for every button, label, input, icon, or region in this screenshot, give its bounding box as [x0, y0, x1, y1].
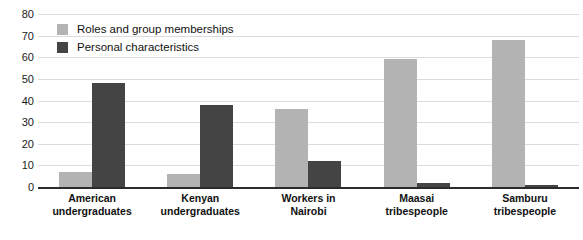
x-axis-label-line: American	[38, 192, 146, 205]
legend-swatch-icon	[57, 42, 68, 53]
x-axis-label: Kenyanundergraduates	[146, 192, 254, 217]
x-axis-label-line: Workers in	[254, 192, 362, 205]
x-axis-label: Americanundergraduates	[38, 192, 146, 217]
y-tick-label-20: 20	[2, 138, 34, 149]
legend-label: Personal characteristics	[77, 41, 199, 53]
y-tick-label-40: 40	[2, 95, 34, 106]
bar	[92, 83, 125, 187]
bar	[275, 109, 308, 187]
legend-swatch-icon	[57, 24, 68, 35]
bar	[384, 59, 417, 187]
legend-item[interactable]: Roles and group memberships	[57, 21, 234, 37]
bar-group	[363, 14, 471, 187]
x-axis-label: Workers inNairobi	[254, 192, 362, 217]
x-axis-label: Samburutribespeople	[471, 192, 579, 217]
x-axis-label-line: tribespeople	[471, 205, 579, 218]
bar-group	[471, 14, 579, 187]
y-tick-label-0: 0	[2, 182, 34, 193]
y-tick-label-10: 10	[2, 160, 34, 171]
x-axis-label-line: Nairobi	[254, 205, 362, 218]
x-axis-label-line: Kenyan	[146, 192, 254, 205]
y-tick-label-50: 50	[2, 73, 34, 84]
y-tick-label-80: 80	[2, 9, 34, 20]
x-axis-label-line: undergraduates	[146, 205, 254, 218]
legend-item[interactable]: Personal characteristics	[57, 39, 234, 55]
x-axis-label-line: undergraduates	[38, 205, 146, 218]
y-tick-label-30: 30	[2, 117, 34, 128]
bar	[492, 40, 525, 187]
bar	[59, 172, 92, 187]
x-axis-label-line: Samburu	[471, 192, 579, 205]
x-axis-line	[38, 187, 579, 189]
x-axis-label: Maasaitribespeople	[363, 192, 471, 217]
y-tick-label-60: 60	[2, 52, 34, 63]
chart-legend: Roles and group membershipsPersonal char…	[57, 21, 234, 57]
y-tick-label-70: 70	[2, 30, 34, 41]
bar	[167, 174, 200, 187]
y-axis: 80706050403020100	[0, 0, 34, 240]
x-axis-label-line: tribespeople	[363, 205, 471, 218]
bar-group	[254, 14, 362, 187]
bar-chart: 80706050403020100 Americanundergraduates…	[0, 0, 583, 240]
legend-label: Roles and group memberships	[77, 23, 234, 35]
bar	[308, 161, 341, 187]
bar	[200, 105, 233, 187]
x-axis-label-line: Maasai	[363, 192, 471, 205]
